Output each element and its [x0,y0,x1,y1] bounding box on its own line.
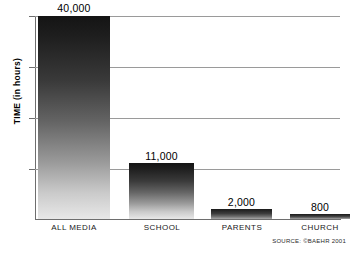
bar-value-all-media: 40,000 [38,2,110,14]
plot-area [35,16,340,219]
bar-value-school: 11,000 [129,150,194,162]
bar-value-church: 800 [290,201,350,213]
bar-parents[interactable] [211,209,272,219]
bar-church[interactable] [290,214,350,219]
bar-value-parents: 2,000 [211,196,272,208]
x-axis-label-school: SCHOOL [126,223,198,232]
bar-all-media[interactable] [38,16,110,219]
source-attribution: SOURCE: ©BAEHR 2001 [272,238,346,244]
bar-school[interactable] [129,163,194,219]
x-axis-label-all-media: ALL MEDIA [33,223,115,232]
x-axis-label-church: CHURCH [285,223,354,232]
x-axis-line [35,219,341,220]
y-axis-title: TIME (in hours) [12,31,22,151]
chart-page: TIME (in hours) 40,000 11,000 2,000 800 … [0,0,354,259]
x-axis-label-parents: PARENTS [205,223,279,232]
